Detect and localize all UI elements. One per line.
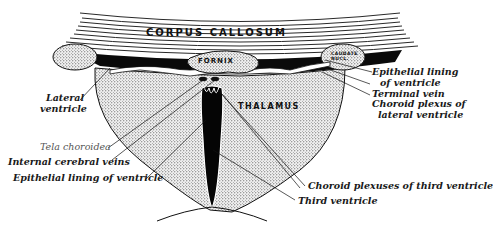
epithelial-lining-right-label: Epithelial lining of ventricle — [372, 66, 458, 88]
choroid-plexuses-third-label: Choroid plexuses of third ventricle — [308, 180, 493, 191]
lateral-ventricle-label-line2: ventricle — [40, 103, 84, 114]
choroid-plexus-lateral-line2: lateral ventricle — [372, 109, 466, 120]
thalamus-label: THALAMUS — [238, 102, 300, 111]
lateral-ventricle-label: Lateral ventricle — [40, 92, 84, 114]
left-caudate — [53, 44, 97, 70]
choroid-plexus-lateral-label: Choroid plexus of lateral ventricle — [372, 98, 466, 120]
fornix-label: FORNIX — [198, 57, 234, 65]
epithelial-lining-left-label: Epithelial lining of ventricle — [13, 172, 163, 183]
internal-cerebral-veins-label: Internal cerebral veins — [8, 156, 130, 167]
third-ventricle-label: Third ventricle — [298, 195, 377, 206]
epithelial-lining-right-line1: Epithelial lining — [372, 66, 458, 77]
internal-cerebral-vein-right — [211, 77, 219, 81]
lateral-ventricle-label-line1: Lateral — [40, 92, 84, 103]
internal-cerebral-vein-left — [199, 77, 207, 81]
choroid-plexus-lateral-line1: Choroid plexus of — [372, 98, 466, 109]
caudate-label: CAUDATE NUCL. — [331, 51, 357, 61]
epithelial-lining-right-line2: of ventricle — [372, 77, 458, 88]
corpus-callosum-label: CORPUS CALLOSUM — [146, 27, 287, 38]
tela-choroidea-label: Tela choroidea — [40, 141, 111, 152]
